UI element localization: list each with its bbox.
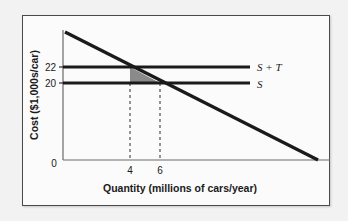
figure-root: 22 20 0 4 6 S + T S Cost ($1,000s/car) Q… (0, 0, 348, 221)
demand-line (65, 32, 318, 160)
y-axis-title: Cost ($1,000s/car) (28, 50, 40, 140)
series-label-supply: S (257, 78, 263, 90)
x-tick-label-4: 4 (127, 165, 133, 176)
x-axis-title: Quantity (millions of cars/year) (103, 182, 257, 194)
origin-label: 0 (51, 158, 57, 169)
y-tick-label-20: 20 (45, 78, 57, 89)
series-label-supply-plus-tax: S + T (257, 61, 282, 73)
x-tick-label-6: 6 (157, 165, 163, 176)
supply-demand-tax-chart: 22 20 0 4 6 S + T S Cost ($1,000s/car) Q… (0, 0, 348, 221)
deadweight-loss-triangle (130, 67, 160, 83)
y-tick-label-22: 22 (45, 62, 57, 73)
